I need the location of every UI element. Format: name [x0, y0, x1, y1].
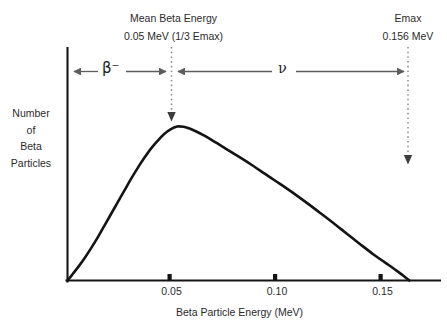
y-axis-title-line-1: of [2, 122, 60, 139]
y-axis-title-line-2: Beta [2, 138, 60, 155]
mean-energy-guide [167, 47, 175, 122]
x-tick-0.05 [168, 274, 172, 281]
x-tick-label-0.15: 0.15 [363, 285, 403, 297]
emax-value: 0.156 MeV [310, 29, 447, 43]
mean-energy-title: Mean Beta Energy [0, 11, 347, 25]
x-tick-label-0.05: 0.05 [152, 285, 192, 297]
x-tick-label-0.10: 0.10 [257, 285, 297, 297]
y-axis-title-line-0: Number [2, 105, 60, 122]
emax-arrowhead [404, 155, 412, 165]
beta-spectrum-figure: Mean Beta Energy 0.05 MeV (1/3 Emax) Ema… [0, 0, 447, 328]
x-tick-0.10 [273, 274, 277, 281]
x-tick-0.15 [379, 274, 383, 281]
beta-spectrum-plot [0, 0, 447, 328]
spectrum-curve [68, 126, 410, 280]
mean-energy-value: 0.05 MeV (1/3 Emax) [0, 29, 347, 43]
x-axis-title: Beta Particle Energy (MeV) [67, 305, 412, 319]
mean-energy-arrowhead [167, 112, 175, 122]
y-axis-title-line-3: Particles [2, 155, 60, 172]
emax-title: Emax [310, 11, 447, 25]
beta-minus-region-label: β⁻ [102, 58, 120, 78]
y-axis-title: NumberofBetaParticles [2, 105, 60, 171]
neutrino-region-label: ν [278, 59, 287, 79]
emax-guide [404, 47, 412, 165]
